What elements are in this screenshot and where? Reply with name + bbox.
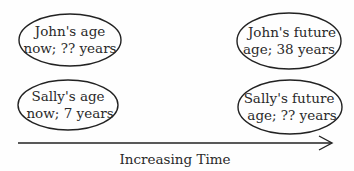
node-label-line2: now; 7 years	[26, 105, 113, 121]
node-label-line1: John's age	[33, 23, 106, 39]
node-john-now: John's age now; ?? years	[19, 14, 121, 66]
node-label-line1: Sally's age	[31, 88, 104, 104]
node-sally-future: Sally's future age; ?? years	[238, 80, 342, 134]
node-label-line2: now; ?? years	[23, 40, 116, 56]
node-sally-now: Sally's age now; 7 years	[18, 80, 118, 130]
node-label-line2: age; 38 years	[243, 41, 335, 57]
node-label-line1: John's future	[246, 24, 336, 40]
node-john-future: John's future age; 38 years	[237, 13, 341, 69]
node-label-line2: age; ?? years	[247, 107, 336, 123]
node-label-line1: Sally's future	[244, 90, 335, 106]
diagram-svg: John's age now; ?? years John's future a…	[0, 0, 354, 171]
time-arrow	[18, 136, 332, 150]
axis-label: Increasing Time	[119, 151, 230, 167]
age-timeline-diagram: John's age now; ?? years John's future a…	[0, 0, 354, 171]
